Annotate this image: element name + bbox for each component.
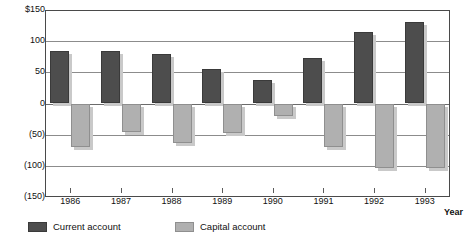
x-axis-tick bbox=[273, 188, 274, 193]
legend-item-capital-account: Capital account bbox=[175, 221, 265, 232]
bar-current-account-1987 bbox=[101, 51, 120, 104]
x-axis-tick bbox=[323, 188, 324, 193]
y-axis-tick-label: $150 bbox=[25, 5, 45, 14]
bar-capital-account-1988 bbox=[173, 104, 192, 143]
x-axis-tick-label: 1992 bbox=[349, 196, 399, 206]
x-axis-tick bbox=[222, 188, 223, 193]
bar-group bbox=[96, 10, 147, 197]
bar-group bbox=[45, 10, 96, 197]
x-axis-tick bbox=[172, 188, 173, 193]
bar-current-account-1993 bbox=[405, 22, 424, 103]
x-axis-tick-label: 1990 bbox=[248, 196, 298, 206]
bars-layer bbox=[45, 10, 450, 197]
bar-current-account-1990 bbox=[253, 80, 272, 103]
bar-current-account-1986 bbox=[50, 51, 69, 104]
bar-capital-account-1987 bbox=[122, 104, 141, 133]
x-axis-tick-label: 1991 bbox=[298, 196, 348, 206]
bar-capital-account-1990 bbox=[274, 104, 293, 116]
bar-capital-account-1986 bbox=[71, 104, 90, 148]
x-axis-tick bbox=[374, 188, 375, 193]
bar-group bbox=[197, 10, 248, 197]
bar-group bbox=[399, 10, 450, 197]
bar-capital-account-1989 bbox=[223, 104, 242, 134]
y-axis-tick-label: 50 bbox=[35, 67, 45, 76]
bar-group bbox=[349, 10, 400, 197]
bar-capital-account-1991 bbox=[324, 104, 343, 148]
y-axis-tick-label: 100 bbox=[30, 36, 45, 45]
bar-capital-account-1993 bbox=[426, 104, 445, 168]
bar-current-account-1988 bbox=[152, 54, 171, 103]
bar-group bbox=[248, 10, 299, 197]
x-axis-tick bbox=[425, 188, 426, 193]
bar-current-account-1991 bbox=[303, 58, 322, 104]
x-axis-tick-label: 1993 bbox=[400, 196, 450, 206]
bar-current-account-1992 bbox=[354, 32, 373, 104]
legend-swatch-capital-account bbox=[175, 222, 194, 232]
x-axis-tick-label: 1987 bbox=[96, 196, 146, 206]
bar-group bbox=[146, 10, 197, 197]
bar-capital-account-1992 bbox=[375, 104, 394, 169]
y-axis-tick-label: (150) bbox=[24, 192, 45, 201]
legend-item-current-account: Current account bbox=[28, 221, 121, 232]
legend-label-current-account: Current account bbox=[53, 221, 121, 232]
x-axis-tick bbox=[121, 188, 122, 193]
x-axis-tick-label: 1988 bbox=[147, 196, 197, 206]
bar-current-account-1989 bbox=[202, 69, 221, 104]
legend-swatch-current-account bbox=[28, 222, 47, 232]
x-axis-tick-label: 1986 bbox=[45, 196, 95, 206]
bar-chart: $150100500(50)(100)(150) 198619871988198… bbox=[0, 0, 467, 237]
y-axis-tick-label: (50) bbox=[29, 130, 45, 139]
y-axis-tick-label: (100) bbox=[24, 161, 45, 170]
x-axis-title: Year bbox=[444, 207, 463, 217]
x-axis-tick-label: 1989 bbox=[197, 196, 247, 206]
legend-label-capital-account: Capital account bbox=[200, 221, 265, 232]
x-axis-tick bbox=[70, 188, 71, 193]
bar-group bbox=[298, 10, 349, 197]
